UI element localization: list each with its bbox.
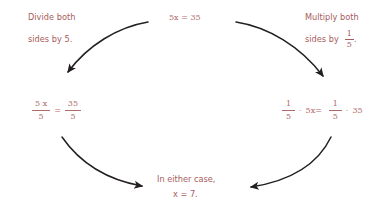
instruction-multiply-label: sides by: [305, 32, 339, 47]
equation-top-text: 5x = 35: [169, 13, 201, 22]
term-5x: 5x: [306, 106, 316, 115]
fraction-35-over-5: 35 5: [65, 100, 81, 122]
fraction-denominator: 5: [330, 113, 341, 122]
instruction-divide-line1: Divide both: [28, 12, 75, 22]
conclusion-line2: x = 7.: [173, 187, 215, 202]
equation-divide-result: 5 x 5 = 35 5: [32, 100, 81, 122]
fraction-numerator: 35: [65, 100, 81, 109]
equation-top: 5x = 35: [169, 13, 201, 22]
instruction-multiply-line1: Multiply both: [305, 12, 359, 22]
equals-sign: =: [50, 106, 65, 115]
fraction-denominator: 5: [345, 41, 354, 49]
equals-sign: =: [315, 106, 322, 115]
arrow-top-left: [68, 22, 148, 72]
equation-multiply-result: 1 5 · 5x = 1 5 · 35: [282, 100, 363, 122]
instruction-multiply: Multiply both sides by 1 5 .: [305, 10, 359, 50]
fraction-one-fifth-b: 1 5: [329, 100, 342, 122]
fraction-denominator: 5: [36, 113, 47, 122]
instruction-multiply-period: .: [354, 32, 357, 47]
arrow-bottom-right: [251, 137, 331, 187]
fraction-one-fifth-a: 1 5: [282, 100, 295, 122]
fraction-numerator: 1: [330, 100, 341, 109]
term-35: 35: [352, 106, 362, 115]
instruction-divide-line2: sides by 5.: [28, 32, 75, 47]
fraction-one-fifth-inline: 1 5: [345, 30, 354, 50]
multiplication-dot-1: ·: [295, 106, 306, 115]
fraction-denominator: 5: [67, 113, 78, 122]
fraction-numerator: 1: [345, 30, 354, 38]
fraction-numerator: 1: [283, 100, 294, 109]
flowchart-canvas: 5x = 35 Divide both sides by 5. Multiply…: [0, 0, 387, 208]
multiplication-dot-2: ·: [342, 106, 353, 115]
conclusion: In either case, x = 7.: [157, 172, 215, 202]
arrow-bottom-left: [62, 137, 142, 186]
instruction-divide: Divide both sides by 5.: [28, 10, 75, 47]
conclusion-line1: In either case,: [157, 174, 215, 184]
fraction-5x-over-5: 5 x 5: [32, 100, 50, 122]
instruction-multiply-line2: sides by 1 5 .: [305, 30, 359, 50]
fraction-denominator: 5: [283, 113, 294, 122]
fraction-numerator: 5 x: [32, 100, 50, 109]
